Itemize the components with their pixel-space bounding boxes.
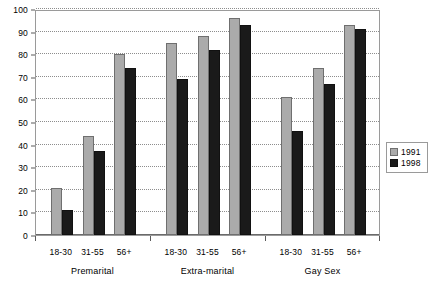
x-category-label: 18-30 xyxy=(49,247,72,257)
x-category-label: 31-55 xyxy=(81,247,104,257)
chart-legend: 19911998 xyxy=(386,142,428,173)
bar xyxy=(114,54,125,235)
gridline xyxy=(36,8,379,9)
legend-swatch-icon xyxy=(390,159,398,167)
bar xyxy=(313,68,324,235)
bars-layer xyxy=(36,11,379,235)
legend-label: 1998 xyxy=(401,158,421,168)
bar xyxy=(166,43,177,235)
bar xyxy=(229,18,240,235)
bar xyxy=(94,151,105,235)
x-category-label: 56+ xyxy=(117,247,132,257)
legend-swatch-icon xyxy=(390,148,398,156)
bar xyxy=(198,36,209,235)
x-group-label: Extra-marital xyxy=(181,266,235,276)
plot-area xyxy=(35,10,380,236)
bar xyxy=(177,79,188,235)
x-group-label: Premarital xyxy=(71,266,114,276)
y-tick-label: 10 xyxy=(18,208,28,218)
bar xyxy=(209,50,220,235)
bar xyxy=(324,84,335,235)
y-tick-label: 90 xyxy=(18,28,28,38)
y-tick-label: 50 xyxy=(18,118,28,128)
y-tick-label: 80 xyxy=(18,50,28,60)
legend-item: 1998 xyxy=(390,158,424,168)
x-tick-mark xyxy=(150,236,151,241)
bar xyxy=(355,29,366,235)
x-tick-mark xyxy=(35,236,36,241)
y-tick-label: 20 xyxy=(18,186,28,196)
bar xyxy=(83,136,94,235)
legend-item: 1991 xyxy=(390,147,424,157)
y-tick-label: 100 xyxy=(13,5,28,15)
x-category-label: 56+ xyxy=(347,247,362,257)
x-tick-mark xyxy=(379,236,380,241)
x-category-label: 31-55 xyxy=(311,247,334,257)
y-tick-label: 30 xyxy=(18,163,28,173)
bar xyxy=(281,97,292,235)
bar xyxy=(51,188,62,235)
x-category-label: 18-30 xyxy=(164,247,187,257)
x-axis: 18-3031-5556+Premarital18-3031-5556+Extr… xyxy=(35,236,380,286)
bar xyxy=(125,68,136,235)
x-group-label: Gay Sex xyxy=(305,266,341,276)
y-tick-label: 0 xyxy=(23,231,28,241)
legend-label: 1991 xyxy=(401,147,421,157)
bar xyxy=(62,210,73,235)
y-tick-label: 60 xyxy=(18,95,28,105)
bar xyxy=(292,131,303,235)
y-axis: 0102030405060708090100 xyxy=(0,10,35,236)
x-category-label: 31-55 xyxy=(196,247,219,257)
y-tick-label: 40 xyxy=(18,141,28,151)
x-category-label: 56+ xyxy=(232,247,247,257)
y-tick-label: 70 xyxy=(18,73,28,83)
x-category-label: 18-30 xyxy=(279,247,302,257)
bar xyxy=(344,25,355,235)
bar-chart: 0102030405060708090100 18-3031-5556+Prem… xyxy=(0,0,431,287)
bar xyxy=(240,25,251,235)
x-tick-mark xyxy=(265,236,266,241)
